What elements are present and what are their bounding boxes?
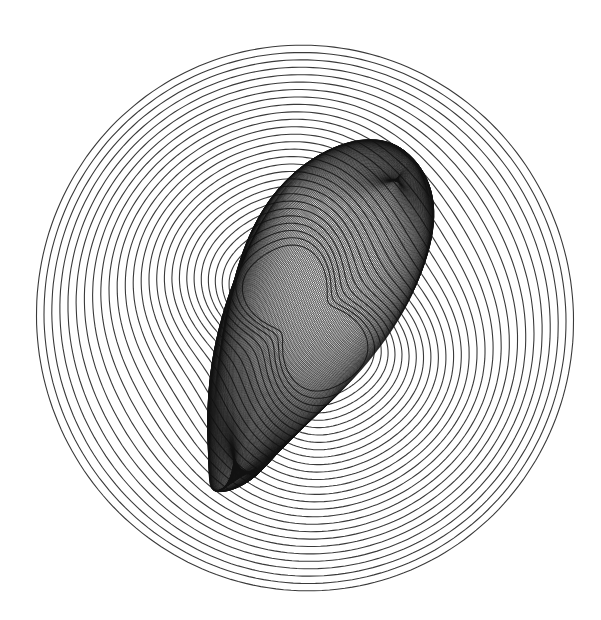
harmonograph-artwork [0, 0, 601, 620]
